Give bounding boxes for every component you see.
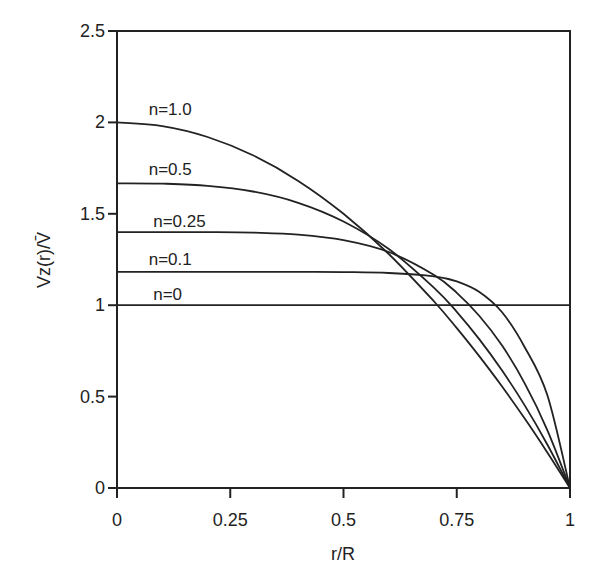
y-tick-label: 0 — [95, 478, 105, 498]
y-tick-label: 0.5 — [80, 387, 105, 407]
x-tick-label: 0.5 — [331, 510, 356, 530]
curve-label: n=0.25 — [153, 212, 205, 231]
curve-label: n=1.0 — [149, 100, 192, 119]
x-tick-label: 0 — [112, 510, 122, 530]
y-tick-label: 2.5 — [80, 21, 105, 41]
curve-labels: n=1.0n=0.5n=0.25n=0.1n=0 — [149, 100, 206, 304]
curve-label: n=0.1 — [149, 250, 192, 269]
x-tick-label: 1 — [565, 510, 575, 530]
x-tick-label: 0.75 — [439, 510, 474, 530]
curve-label: n=0.5 — [149, 160, 192, 179]
x-axis-title: r/R — [331, 544, 355, 564]
curve-label: n=0 — [153, 285, 182, 304]
x-axis-ticks: 00.250.50.751 — [112, 488, 575, 530]
curve-n-0-25 — [117, 232, 570, 488]
y-tick-label: 1.5 — [80, 204, 105, 224]
y-tick-label: 2 — [95, 112, 105, 132]
y-axis-title: Vz(r)/V̄ — [34, 232, 54, 288]
y-tick-label: 1 — [95, 295, 105, 315]
x-tick-label: 0.25 — [213, 510, 248, 530]
y-axis-ticks: 00.511.522.5 — [80, 21, 117, 498]
chart: 00.511.522.5 00.250.50.751 n=1.0n=0.5n=0… — [0, 0, 592, 580]
